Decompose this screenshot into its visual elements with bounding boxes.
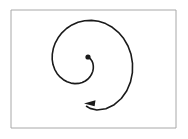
spiral-origin-dot bbox=[85, 54, 90, 59]
figure-container bbox=[0, 0, 188, 139]
spiral-figure bbox=[0, 0, 188, 139]
spiral-direction-arrowhead bbox=[84, 100, 96, 106]
archimedean-spiral bbox=[52, 20, 132, 110]
